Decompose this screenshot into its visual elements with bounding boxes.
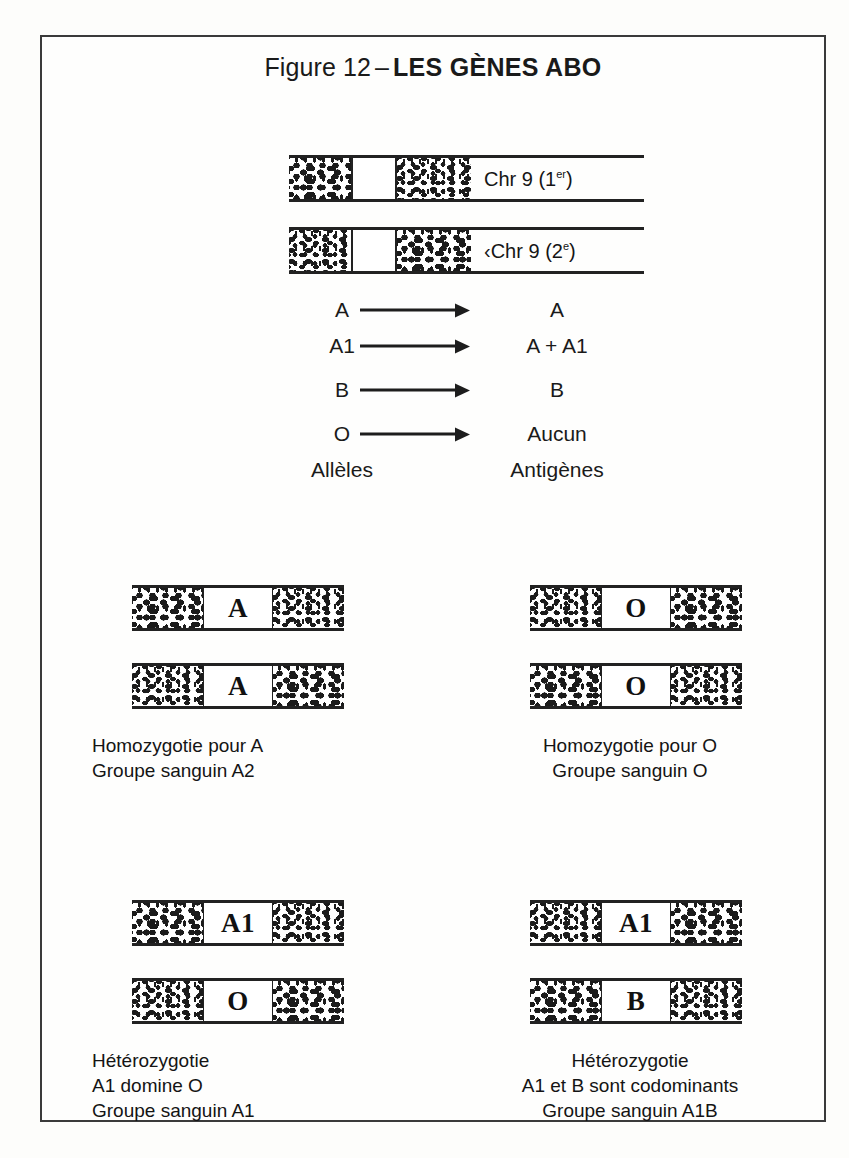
figure-frame: Figure 12–LES GÈNES ABO Chr 9 (1er) ‹Chr… [40,35,826,1122]
chromosome-stipple-right [397,230,471,271]
panel-chromosome-bar-2: O [530,663,742,709]
panel-allele-box: A [204,588,272,628]
panel-caption-line: Homozygotie pour O [480,733,780,758]
panel-allele-box: O [602,588,670,628]
chromosome-bar-1: Chr 9 (1er) [289,155,644,202]
panel-caption-line: Groupe sanguin A2 [92,758,422,783]
panel-stipple-right [670,666,742,706]
mapping-header-antigens: Antigènes [472,458,642,482]
panel-stipple-right [670,588,742,628]
mapping-antigen: Aucun [472,416,642,452]
figure-name: LES GÈNES ABO [393,53,602,81]
panel-stipple-left [530,588,602,628]
panel-stipple-left [132,588,204,628]
mapping-header-alleles: Allèles [287,458,397,482]
mapping-arrow-icon [360,428,470,441]
panel-stipple-right [272,666,344,706]
mapping-row: A1 A + A1 [42,328,824,364]
chromosome-label-2: ‹Chr 9 (2e) [484,239,576,262]
page-background: Figure 12–LES GÈNES ABO Chr 9 (1er) ‹Chr… [0,0,849,1158]
chromosome-label-1-tail: ) [566,167,573,189]
chromosome-gap-region [353,230,395,271]
chromosome-divider-left [351,227,353,274]
panel-caption-line: A1 et B sont codominants [430,1073,830,1098]
panel-stipple-right [272,903,344,943]
mapping-arrow-icon [360,384,470,397]
panel-chromosome-bar-2: O [132,978,344,1024]
chromosome-label-1-sup: er [556,167,566,179]
mapping-row: B B [42,372,824,408]
panel-stipple-left [132,981,204,1021]
mapping-antigen: B [472,372,642,408]
panel-caption-line: Groupe sanguin A1 [92,1098,422,1123]
mapping-antigen: A [472,292,642,328]
panel-stipple-left [132,903,204,943]
mapping-arrow-icon [360,304,470,317]
chromosome-gap-region [353,158,395,199]
mapping-antigen: A + A1 [472,328,642,364]
panel-caption-line: Groupe sanguin A1B [430,1098,830,1123]
chromosome-stipple-left [289,158,351,199]
chromosome-stipple-right [397,158,471,199]
panel-chromosome-bar-1: A1 [530,900,742,946]
figure-number: Figure 12 [264,53,371,81]
panel-caption-line: Homozygotie pour A [92,733,422,758]
panel-caption: Homozygotie pour A Groupe sanguin A2 [92,733,422,783]
panel-chromosome-bar-2: B [530,978,742,1024]
chromosome-label-2-text: Chr 9 (2 [491,239,563,261]
chromosome-divider-left [351,155,353,202]
panel-allele-box: O [602,666,670,706]
allele-antigen-mapping: A A A1 A + A1 B B O [42,292,824,492]
panel-stipple-right [272,588,344,628]
panel-caption: Hétérozygotie A1 domine O Groupe sanguin… [92,1048,422,1123]
panel-chromosome-bar-1: A1 [132,900,344,946]
chromosome-label-2-tail: ) [569,239,576,261]
panel-allele-box: A1 [602,903,670,943]
panel-stipple-left [530,981,602,1021]
panel-stipple-right [670,903,742,943]
panel-allele-box: A [204,666,272,706]
chromosome-bar-2: ‹Chr 9 (2e) [289,227,644,274]
panel-caption: Homozygotie pour O Groupe sanguin O [480,733,780,783]
panel-chromosome-bar-1: A [132,585,344,631]
panel-stipple-left [132,666,204,706]
panel-stipple-left [530,666,602,706]
panel-caption: Hétérozygotie A1 et B sont codominants G… [430,1048,830,1123]
panel-stipple-right [670,981,742,1021]
mapping-arrow-icon [360,340,470,353]
panel-caption-line: Groupe sanguin O [480,758,780,783]
panel-caption-line: Hétérozygotie [92,1048,422,1073]
mapping-row: O Aucun [42,416,824,452]
panel-allele-box: A1 [204,903,272,943]
panel-caption-line: A1 domine O [92,1073,422,1098]
chromosome-label-1-text: Chr 9 (1 [484,167,556,189]
chromosome-label-1: Chr 9 (1er) [484,167,573,190]
panel-chromosome-bar-2: A [132,663,344,709]
figure-title: Figure 12–LES GÈNES ABO [42,53,824,82]
mapping-headers: Allèles Antigènes [42,458,824,492]
panel-chromosome-bar-1: O [530,585,742,631]
panel-allele-box: O [204,981,272,1021]
panel-caption-line: Hétérozygotie [430,1048,830,1073]
panel-allele-box: B [602,981,670,1021]
mapping-row: A A [42,292,824,328]
panel-stipple-left [530,903,602,943]
figure-title-dash: – [371,53,393,81]
panel-stipple-right [272,981,344,1021]
chromosome-stipple-left [289,230,351,271]
chromosome-label-2-prefix: ‹ [484,239,491,261]
